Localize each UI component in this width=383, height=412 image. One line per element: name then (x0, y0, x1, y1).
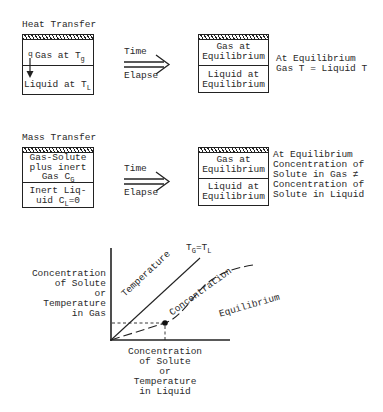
equilibrium-curve (111, 265, 253, 340)
graph-axes (110, 248, 230, 341)
heat-flux-arrow-icon (27, 58, 34, 78)
time-elapse-arrow-icon (124, 172, 169, 191)
temperature-line (111, 258, 200, 340)
diagram-graphics (0, 0, 383, 412)
equilibrium-point (162, 320, 168, 326)
time-elapse-arrow-icon (124, 55, 169, 74)
